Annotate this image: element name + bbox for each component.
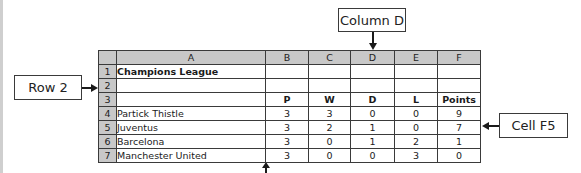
cell-a5[interactable]: Juventus <box>117 121 266 135</box>
column-header-row: A B C D E F <box>99 51 481 65</box>
cell-f5[interactable]: 7 <box>438 121 481 135</box>
table-row: 5 Juventus 3 2 1 0 7 <box>99 121 481 135</box>
cell-e4[interactable]: 0 <box>395 107 438 121</box>
callout-cell-f5-arrow-line <box>489 125 499 127</box>
column-header-c[interactable]: C <box>309 51 351 65</box>
callout-column-d: Column D <box>338 8 406 32</box>
cell-d5[interactable]: 1 <box>351 121 395 135</box>
cell-c5[interactable]: 2 <box>309 121 351 135</box>
column-header-f[interactable]: F <box>438 51 481 65</box>
cell-b3[interactable]: P <box>266 93 309 107</box>
cell-c1[interactable] <box>309 65 351 79</box>
cell-d1[interactable] <box>351 65 395 79</box>
cell-c2[interactable] <box>309 79 351 93</box>
arrow-left-icon <box>482 122 489 130</box>
cell-b7[interactable]: 3 <box>266 149 309 163</box>
row-header-3[interactable]: 3 <box>99 93 117 107</box>
corner-cell[interactable] <box>99 51 117 65</box>
cell-a6[interactable]: Barcelona <box>117 135 266 149</box>
cell-c6[interactable]: 0 <box>309 135 351 149</box>
cell-d4[interactable]: 0 <box>351 107 395 121</box>
callout-cell-f5: Cell F5 <box>499 113 568 138</box>
callout-row-2: Row 2 <box>14 75 82 100</box>
cell-e3[interactable]: L <box>395 93 438 107</box>
table-row: 1 Champions League <box>99 65 481 79</box>
row-header-1[interactable]: 1 <box>99 65 117 79</box>
row-header-4[interactable]: 4 <box>99 107 117 121</box>
cell-d6[interactable]: 1 <box>351 135 395 149</box>
cell-b6[interactable]: 3 <box>266 135 309 149</box>
row-header-2[interactable]: 2 <box>99 79 117 93</box>
cell-b2[interactable] <box>266 79 309 93</box>
table-row: 6 Barcelona 3 0 1 2 1 <box>99 135 481 149</box>
cell-d3[interactable]: D <box>351 93 395 107</box>
arrow-down-icon <box>369 43 377 50</box>
cell-e1[interactable] <box>395 65 438 79</box>
arrow-right-icon <box>91 84 98 92</box>
cell-e2[interactable] <box>395 79 438 93</box>
column-header-a[interactable]: A <box>117 51 266 65</box>
cell-f7[interactable]: 0 <box>438 149 481 163</box>
cell-e7[interactable]: 3 <box>395 149 438 163</box>
spreadsheet-grid: A B C D E F 1 Champions League 2 <box>98 50 481 163</box>
cell-f2[interactable] <box>438 79 481 93</box>
row-header-5[interactable]: 5 <box>99 121 117 135</box>
table-row: 7 Manchester United 3 0 0 3 0 <box>99 149 481 163</box>
cell-c3[interactable]: W <box>309 93 351 107</box>
cell-d7[interactable]: 0 <box>351 149 395 163</box>
cell-f3[interactable]: Points <box>438 93 481 107</box>
row-header-6[interactable]: 6 <box>99 135 117 149</box>
table-row: 3 P W D L Points <box>99 93 481 107</box>
column-header-d[interactable]: D <box>351 51 395 65</box>
cell-b4[interactable]: 3 <box>266 107 309 121</box>
cell-e5[interactable]: 0 <box>395 121 438 135</box>
cell-f1[interactable] <box>438 65 481 79</box>
left-edge-bar <box>0 0 3 173</box>
cell-a3[interactable] <box>117 93 266 107</box>
table-row: 2 <box>99 79 481 93</box>
cell-c7[interactable]: 0 <box>309 149 351 163</box>
column-header-e[interactable]: E <box>395 51 438 65</box>
cell-e6[interactable]: 2 <box>395 135 438 149</box>
cell-b5[interactable]: 3 <box>266 121 309 135</box>
cell-f6[interactable]: 1 <box>438 135 481 149</box>
cell-a2[interactable] <box>117 79 266 93</box>
cell-b1[interactable] <box>266 65 309 79</box>
row-header-7[interactable]: 7 <box>99 149 117 163</box>
column-header-b[interactable]: B <box>266 51 309 65</box>
table-row: 4 Partick Thistle 3 3 0 0 9 <box>99 107 481 121</box>
cell-a4[interactable]: Partick Thistle <box>117 107 266 121</box>
cell-f4[interactable]: 9 <box>438 107 481 121</box>
cell-a7[interactable]: Manchester United <box>117 149 266 163</box>
cell-a1[interactable]: Champions League <box>117 65 266 79</box>
cell-d2[interactable] <box>351 79 395 93</box>
cell-c4[interactable]: 3 <box>309 107 351 121</box>
